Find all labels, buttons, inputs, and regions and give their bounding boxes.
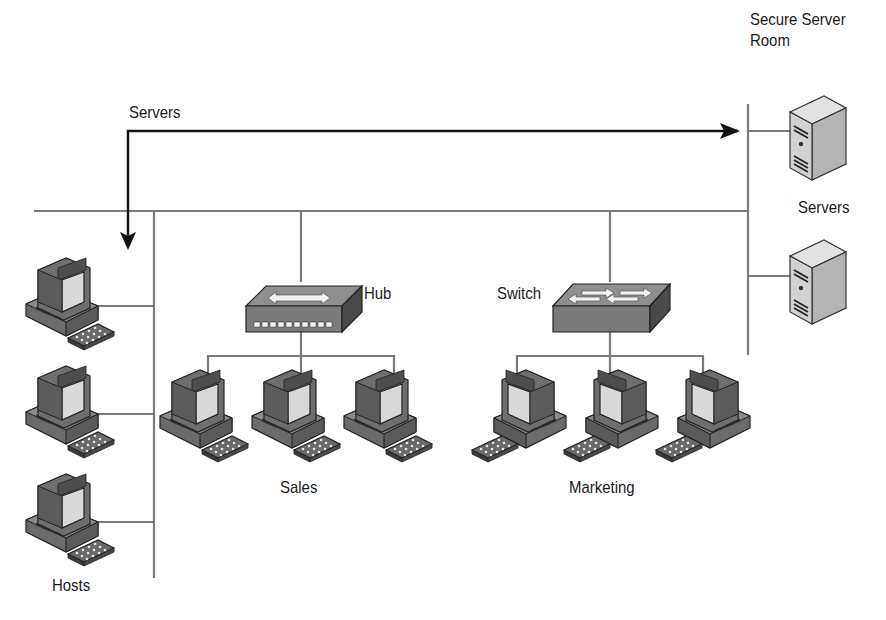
hub-label: Hub xyxy=(364,284,391,304)
marketing-label: Marketing xyxy=(569,478,635,498)
network-diagram xyxy=(0,0,886,620)
secure-server-room-label-line2: Room xyxy=(750,31,790,51)
host-computer-3 xyxy=(26,474,114,566)
network-cabling xyxy=(34,104,790,578)
servers-arrow-label: Servers xyxy=(129,103,181,123)
sales-computer-2 xyxy=(252,370,340,462)
marketing-computer-3 xyxy=(656,370,750,462)
sales-computer-1 xyxy=(160,370,248,462)
secure-server-room-label: Secure Server xyxy=(750,10,846,30)
server-2 xyxy=(790,240,846,324)
servers-group-label: Servers xyxy=(798,198,850,218)
marketing-computer-2 xyxy=(564,370,658,462)
host-computer-1 xyxy=(26,258,114,350)
sales-computer-3 xyxy=(344,370,432,462)
server-1 xyxy=(790,96,846,180)
switch-icon xyxy=(553,284,670,332)
hosts-label: Hosts xyxy=(52,576,90,596)
host-computer-2 xyxy=(26,366,114,458)
sales-label: Sales xyxy=(280,478,317,498)
marketing-computer-1 xyxy=(472,370,566,462)
switch-label: Switch xyxy=(497,284,541,304)
servers-flow-arrow xyxy=(128,131,738,240)
hub-icon xyxy=(246,286,362,332)
